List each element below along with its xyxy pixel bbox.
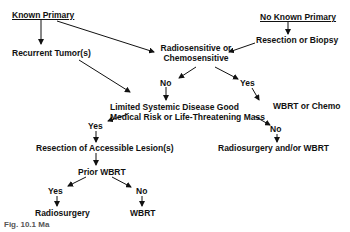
node-limited-systemic-disease: Limited Systemic Disease Good Medical Ri… xyxy=(110,102,265,122)
node-radiosurgery-and-or-wbrt: Radiosurgery and/or WBRT xyxy=(218,143,329,153)
node-wbrt: WBRT xyxy=(130,208,156,218)
label-no-2: No xyxy=(270,124,281,134)
figure-caption: Fig. 10.1 Ma xyxy=(4,220,49,229)
node-limited-line2: Medical Risk or Life-Threatening Mass xyxy=(110,112,265,122)
flowchart-diagram: Known Primary No Known Primary Resection… xyxy=(0,0,350,232)
label-no-1: No xyxy=(160,78,171,88)
node-recurrent-tumors: Recurrent Tumor(s) xyxy=(12,48,91,58)
node-no-known-primary: No Known Primary xyxy=(260,12,336,22)
node-prior-wbrt: Prior WBRT xyxy=(78,167,126,177)
node-radiosensitive-line2: Chemosensitive xyxy=(160,53,232,63)
node-limited-line1: Limited Systemic Disease Good xyxy=(110,102,265,112)
label-yes-2: Yes xyxy=(88,121,103,131)
label-yes-3: Yes xyxy=(48,186,63,196)
label-yes-1: Yes xyxy=(240,78,255,88)
label-no-3: No xyxy=(136,186,147,196)
node-known-primary: Known Primary xyxy=(12,10,74,20)
node-radiosensitive-line1: Radiosensitive or xyxy=(160,43,232,53)
node-resection-or-biopsy: Resection or Biopsy xyxy=(256,35,338,45)
node-wbrt-or-chemo: WBRT or Chemo xyxy=(273,101,341,111)
node-radiosensitive-or-chemosensitive: Radiosensitive or Chemosensitive xyxy=(160,43,232,63)
node-resection-accessible-lesions: Resection of Accessible Lesion(s) xyxy=(36,143,174,153)
node-radiosurgery: Radiosurgery xyxy=(35,208,90,218)
